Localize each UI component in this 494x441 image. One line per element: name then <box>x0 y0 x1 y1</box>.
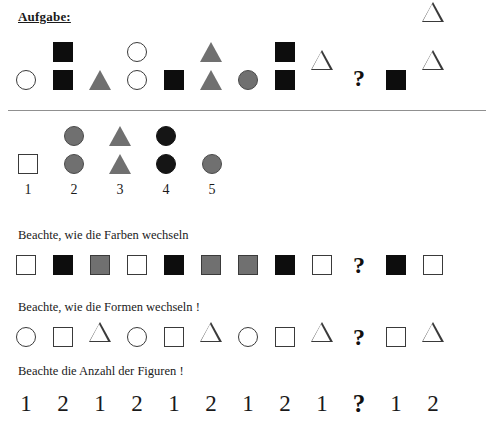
answer-option-number[interactable]: 2 <box>58 182 90 198</box>
sequence-cell <box>47 32 79 93</box>
gray-circle-icon <box>238 70 258 90</box>
answer-option[interactable] <box>150 118 182 176</box>
white-square-icon <box>53 327 73 347</box>
answer-option-number[interactable]: 1 <box>12 182 44 198</box>
gray-triangle-icon <box>200 42 222 62</box>
pattern-cell <box>195 322 227 352</box>
answer-option-number[interactable]: 5 <box>196 182 228 198</box>
white-square-icon <box>164 327 184 347</box>
gray-circle-icon <box>64 126 84 146</box>
shape-stack <box>16 70 36 90</box>
shape-stack <box>275 42 295 90</box>
sequence-cell <box>121 32 153 93</box>
black-square-icon <box>53 42 73 62</box>
shape-stack <box>109 126 131 174</box>
sequence-cell <box>84 32 116 93</box>
sequence-cell <box>417 32 449 93</box>
sequence-cell <box>269 32 301 93</box>
color-pattern-strip: ? <box>10 250 488 280</box>
pattern-cell <box>84 250 116 280</box>
shape-stack <box>156 126 176 174</box>
pattern-cell <box>121 250 153 280</box>
question-mark-placeholder: ? <box>353 325 365 349</box>
white-circle-icon <box>127 327 147 347</box>
question-mark-placeholder: ? <box>353 391 366 416</box>
pattern-cell <box>10 250 42 280</box>
pattern-cell <box>380 322 412 352</box>
answer-option[interactable] <box>12 118 44 176</box>
count-cell: 2 <box>47 386 79 420</box>
white-square-icon <box>16 255 36 275</box>
gray-square-icon <box>201 255 221 275</box>
pattern-cell <box>84 322 116 352</box>
pattern-cell <box>232 322 264 352</box>
count-cell: 2 <box>121 386 153 420</box>
count-cell: 2 <box>269 386 301 420</box>
answer-option-number[interactable]: 4 <box>150 182 182 198</box>
sequence-cell <box>195 32 227 93</box>
black-square-icon <box>53 70 73 90</box>
black-square-icon <box>386 255 406 275</box>
sequence-cell <box>380 32 412 93</box>
pattern-cell <box>10 322 42 352</box>
black-square-icon <box>275 255 295 275</box>
pattern-cell <box>158 250 190 280</box>
shape-stack <box>202 154 222 174</box>
shape-stack <box>386 70 406 90</box>
pattern-cell <box>417 322 449 352</box>
question-mark-placeholder: ? <box>353 253 365 277</box>
pattern-cell <box>47 322 79 352</box>
pattern-cell <box>417 250 449 280</box>
count-cell: 1 <box>84 386 116 420</box>
white-triangle-icon <box>311 322 333 352</box>
gray-triangle-icon <box>200 70 222 90</box>
answer-option-number[interactable]: 3 <box>104 182 136 198</box>
white-square-icon <box>386 327 406 347</box>
white-square-icon <box>127 255 147 275</box>
gray-triangle-icon <box>109 154 131 174</box>
hint-label-shapes: Beachte, wie die Formen wechseln ! <box>18 300 200 315</box>
white-square-icon <box>18 154 38 174</box>
gray-circle-icon <box>64 154 84 174</box>
count-cell: 2 <box>417 386 449 420</box>
shape-stack <box>53 42 73 90</box>
count-pattern-strip: 121212121?12 <box>10 386 488 420</box>
black-circle-icon <box>156 154 176 174</box>
count-cell: 1 <box>306 386 338 420</box>
shape-stack <box>200 42 222 90</box>
white-triangle-icon <box>200 322 222 352</box>
white-circle-icon <box>127 70 147 90</box>
white-circle-icon <box>238 327 258 347</box>
answer-option[interactable] <box>196 118 228 176</box>
pattern-cell <box>121 322 153 352</box>
white-triangle-icon <box>422 50 444 90</box>
white-square-icon <box>312 255 332 275</box>
shape-stack <box>127 42 147 90</box>
gray-square-icon <box>90 255 110 275</box>
white-square-icon <box>423 255 443 275</box>
shape-stack <box>89 70 111 90</box>
answer-option[interactable] <box>58 118 90 176</box>
black-circle-icon <box>156 126 176 146</box>
pattern-cell <box>269 322 301 352</box>
answer-options <box>12 118 228 176</box>
gray-triangle-icon <box>89 70 111 90</box>
count-cell: 1 <box>380 386 412 420</box>
answer-option[interactable] <box>104 118 136 176</box>
page-title: Aufgabe: <box>18 9 71 25</box>
pattern-cell <box>47 250 79 280</box>
black-square-icon <box>386 70 406 90</box>
white-circle-icon <box>16 70 36 90</box>
sequence-cell: ? <box>343 32 375 93</box>
shape-pattern-strip: ? <box>10 322 488 352</box>
gray-square-icon <box>238 255 258 275</box>
gray-triangle-icon <box>109 126 131 146</box>
count-cell: 1 <box>10 386 42 420</box>
shape-stack <box>422 2 444 90</box>
black-square-icon <box>275 42 295 62</box>
pattern-cell <box>158 322 190 352</box>
question-mark-placeholder: ? <box>353 66 365 90</box>
main-sequence: ? <box>10 32 488 93</box>
black-square-icon <box>53 255 73 275</box>
hint-label-colors: Beachte, wie die Farben wechseln <box>18 228 188 243</box>
